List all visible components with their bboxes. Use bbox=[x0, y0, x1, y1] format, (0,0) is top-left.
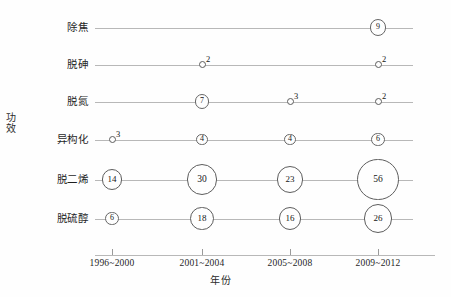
data-point-value: 2 bbox=[382, 91, 386, 101]
data-point-marker bbox=[287, 98, 294, 105]
chart-row: 脱氮732 bbox=[0, 89, 451, 115]
data-point-marker bbox=[375, 98, 382, 105]
data-point: 23 bbox=[277, 166, 304, 193]
x-axis-tick bbox=[378, 249, 379, 255]
data-point-value: 7 bbox=[200, 97, 204, 105]
data-point-value: 9 bbox=[376, 23, 380, 31]
chart-row: 脱砷22 bbox=[0, 52, 451, 78]
row-label: 脱硫醇 bbox=[20, 206, 88, 232]
data-point-value: 56 bbox=[373, 175, 383, 185]
data-point-value: 2 bbox=[382, 54, 386, 64]
data-point-value: 4 bbox=[288, 135, 292, 143]
chart-row: 脱硫醇6181626 bbox=[0, 206, 451, 232]
data-point-value: 18 bbox=[197, 214, 206, 223]
row-label: 脱氮 bbox=[20, 89, 88, 115]
data-point: 30 bbox=[187, 164, 218, 195]
data-point: 18 bbox=[190, 207, 214, 231]
row-label: 脱二烯 bbox=[20, 167, 88, 193]
row-baseline bbox=[95, 65, 413, 66]
x-axis-tick-label: 2001~2004 bbox=[157, 258, 247, 268]
bubble-chart: 功效 除焦9脱砷22脱氮732异构化3446脱二烯14302356脱硫醇6181… bbox=[0, 0, 451, 297]
data-point: 6 bbox=[105, 212, 119, 226]
data-point: 6 bbox=[371, 133, 385, 147]
x-axis-tick-label: 2009~2012 bbox=[333, 258, 423, 268]
data-point: 7 bbox=[195, 94, 210, 109]
data-point-marker bbox=[109, 136, 116, 143]
data-point-value: 3 bbox=[294, 91, 298, 101]
x-axis-tick bbox=[112, 249, 113, 255]
row-baseline bbox=[95, 140, 413, 141]
data-point-value: 3 bbox=[116, 129, 120, 139]
chart-row: 除焦9 bbox=[0, 15, 451, 41]
data-point: 9 bbox=[370, 19, 387, 36]
x-axis-tick-label: 2005~2008 bbox=[245, 258, 335, 268]
data-point-value: 2 bbox=[206, 54, 210, 64]
data-point: 4 bbox=[196, 134, 207, 145]
row-label: 除焦 bbox=[20, 15, 88, 41]
data-point: 56 bbox=[357, 159, 399, 201]
data-point: 4 bbox=[284, 134, 295, 145]
chart-row: 异构化3446 bbox=[0, 127, 451, 153]
data-point: 16 bbox=[279, 207, 301, 229]
data-point-value: 23 bbox=[285, 175, 294, 184]
data-point: 26 bbox=[364, 204, 393, 233]
x-axis-tick-label: 1996~2000 bbox=[67, 258, 157, 268]
row-label: 脱砷 bbox=[20, 52, 88, 78]
row-baseline bbox=[95, 28, 413, 29]
data-point-value: 14 bbox=[107, 175, 116, 184]
data-point-value: 30 bbox=[197, 175, 207, 185]
row-baseline bbox=[95, 102, 413, 103]
x-axis-tick bbox=[290, 249, 291, 255]
x-axis-tick bbox=[202, 249, 203, 255]
data-point-value: 4 bbox=[200, 135, 204, 143]
data-point: 14 bbox=[102, 169, 123, 190]
data-point-value: 26 bbox=[373, 214, 382, 223]
data-point-value: 6 bbox=[376, 135, 380, 143]
x-axis-title: 年份 bbox=[181, 272, 261, 287]
data-point-value: 16 bbox=[285, 214, 294, 223]
data-point-marker bbox=[199, 61, 206, 68]
chart-row: 脱二烯14302356 bbox=[0, 167, 451, 193]
data-point-value: 6 bbox=[110, 214, 114, 222]
data-point-marker bbox=[375, 61, 382, 68]
x-axis-line bbox=[95, 255, 435, 256]
row-label: 异构化 bbox=[20, 127, 88, 153]
